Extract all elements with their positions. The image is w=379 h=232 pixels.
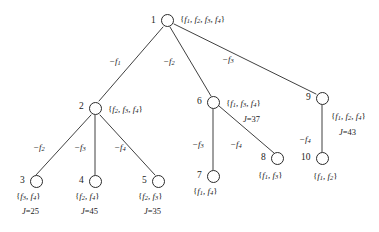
node-3-id: 3 (20, 176, 25, 186)
node-3-j-value: J=25 (22, 207, 39, 216)
edge-label-1-9: −f3 (222, 55, 234, 65)
node-8-set: {f1, f3} (258, 171, 283, 181)
edge-label-2-3: −f2 (33, 143, 45, 153)
edge-label-2-4: −f3 (74, 143, 86, 153)
tree-node-5[interactable] (152, 175, 165, 188)
node-6-set: {f1, f3, f4} (226, 99, 261, 109)
node-7-set: {f1, f4} (193, 187, 218, 197)
node-4-set: {f2, f4} (75, 192, 100, 202)
node-10-set: {f1, f2} (313, 172, 338, 182)
node-1-id: 1 (151, 16, 156, 26)
node-2-id: 2 (79, 102, 84, 112)
node-5-set: {f2, f3} (138, 192, 163, 202)
node-6-id: 6 (197, 97, 202, 107)
search-tree-diagram: 1 {f1, f2, f3, f4} 2 {f2, f3, f4} 3 {f3,… (0, 0, 379, 232)
node-4-j-value: J=45 (81, 207, 98, 216)
edge-label-1-6: −f2 (163, 57, 175, 67)
node-1-set: {f1, f2, f3, f4} (180, 15, 225, 25)
edge-1-6 (170, 27, 211, 96)
node-9-j-value: J=43 (339, 128, 356, 137)
edge-label-6-7: −f3 (192, 140, 204, 150)
edge-1-9 (174, 24, 316, 94)
node-10-id: 10 (301, 153, 311, 163)
tree-edges-layer (0, 0, 379, 232)
tree-node-10[interactable] (316, 152, 329, 165)
edge-label-6-8: −f4 (230, 140, 242, 150)
tree-node-3[interactable] (30, 175, 43, 188)
node-7-id: 7 (197, 171, 202, 181)
edge-label-9-10: −f4 (299, 135, 311, 145)
node-5-j-value: J=35 (144, 207, 161, 216)
edge-2-5 (100, 115, 155, 175)
node-2-set: {f2, f3, f4} (108, 105, 143, 115)
tree-node-9[interactable] (316, 92, 329, 105)
tree-node-7[interactable] (207, 170, 220, 183)
node-6-j-value: J=37 (243, 115, 260, 124)
edge-label-1-2: −f1 (109, 57, 121, 67)
edge-label-2-5: −f4 (114, 143, 126, 153)
node-3-set: {f3, f4} (16, 192, 41, 202)
tree-node-1[interactable] (161, 14, 174, 27)
tree-node-2[interactable] (89, 102, 102, 115)
tree-node-8[interactable] (271, 152, 284, 165)
tree-node-4[interactable] (89, 175, 102, 188)
node-9-id: 9 (306, 93, 311, 103)
node-9-set: {f1, f2, f4} (331, 112, 366, 122)
node-5-id: 5 (142, 176, 147, 186)
node-8-id: 8 (261, 153, 266, 163)
tree-node-6[interactable] (207, 96, 220, 109)
node-4-id: 4 (79, 176, 84, 186)
